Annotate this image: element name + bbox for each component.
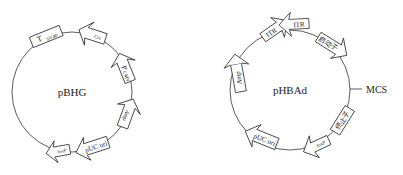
svg-text:ITR: ITR: [293, 21, 305, 30]
svg-text:pHBAd: pHBAd: [273, 84, 308, 96]
feature-loxp-phbad: loxP: [298, 129, 334, 163]
pbhg-name: pBHG: [58, 86, 87, 98]
plasmid-phbad: pHBAd MCS ITR ITR 启动子 终止子 loxP: [222, 11, 387, 163]
feature-cre: Cre: [75, 18, 109, 50]
plasmid-maps-figure: pBHG T SV40 Cre P CMV Amp pUC ori: [0, 0, 403, 175]
feature-loxp: loxP: [44, 138, 71, 164]
feature-puc-ori: pUC ori: [72, 131, 112, 164]
feature-promoter: 启动子: [312, 26, 354, 64]
feature-puc-ori-phbad: pUC ori: [241, 120, 282, 155]
mcs-label: MCS: [366, 84, 387, 95]
feature-tsv40: T SV40: [29, 25, 63, 47]
feature-pcmv: P CMV: [107, 49, 141, 86]
feature-ampr: Amp: [111, 95, 145, 132]
plasmid-pbhg: pBHG T SV40 Cre P CMV Amp pUC ori: [12, 18, 144, 164]
feature-terminator: 终止子: [330, 105, 354, 135]
feature-ampr-phbad: Amp: [222, 52, 253, 94]
